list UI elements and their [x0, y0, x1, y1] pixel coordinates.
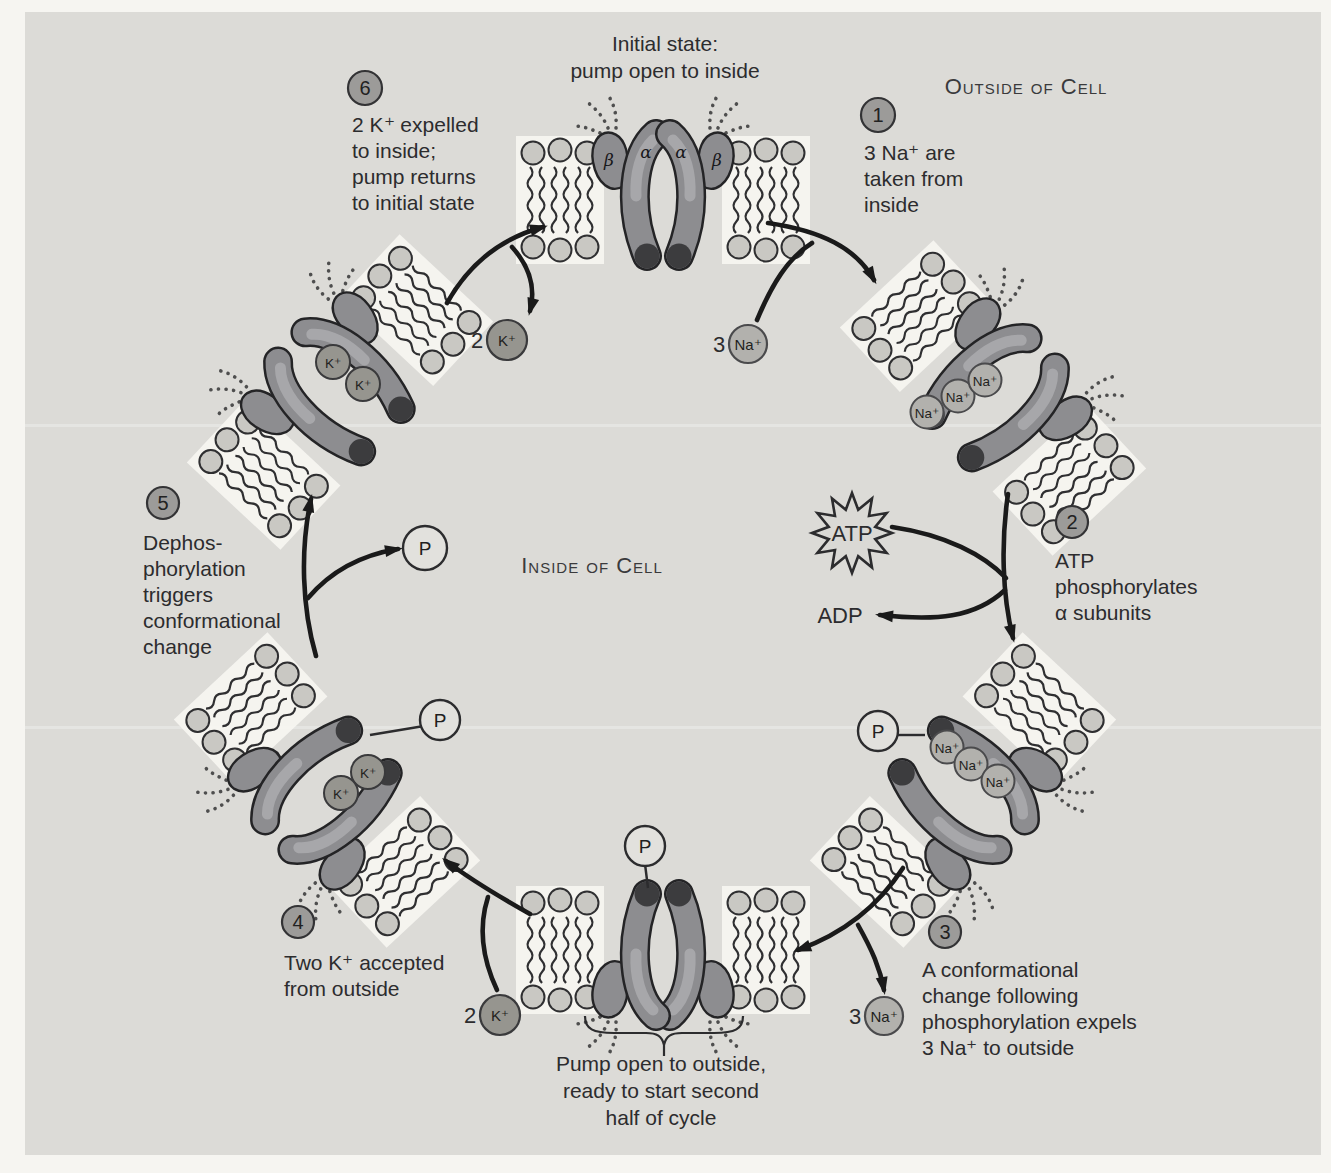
- beta-subunit-label: β: [604, 150, 614, 170]
- step1-text: 3 Na⁺ are taken from inside: [864, 140, 963, 218]
- potassium-count-top: 2: [471, 328, 483, 354]
- arrow-na-out-branch: [858, 925, 884, 990]
- sodium-ion-label: Na⁺: [946, 389, 970, 405]
- sodium-count-top: 3: [713, 332, 725, 358]
- step6-number: 6: [359, 77, 370, 100]
- step5-number: 5: [157, 492, 168, 515]
- pump-open-outside-bottom: [516, 882, 810, 1056]
- pump-initial-top: [516, 95, 810, 269]
- step4-number: 4: [292, 911, 303, 934]
- sodium-symbol-bottom: Na⁺: [870, 1008, 897, 1026]
- step2-number: 2: [1066, 511, 1077, 534]
- bottom-caption: Pump open to outside, ready to start sec…: [556, 1050, 766, 1131]
- figure-title: Initial state: pump open to inside: [570, 30, 759, 84]
- step6-text: 2 K⁺ expelled to inside; pump returns to…: [352, 112, 479, 216]
- potassium-count-bottom: 2: [464, 1003, 476, 1029]
- sodium-count-bottom: 3: [849, 1004, 861, 1030]
- phosphate-label-free: P: [419, 538, 432, 560]
- arrow-step1-to-step2: [1004, 494, 1013, 638]
- beta-subunit-label: β: [712, 150, 722, 170]
- potassium-ion-label: K⁺: [325, 355, 341, 371]
- arrow-p-release-branch: [308, 549, 398, 598]
- alpha-subunit-label: α: [640, 142, 651, 162]
- potassium-ion-label: K⁺: [355, 377, 371, 393]
- phosphate-label-bottom: P: [639, 836, 652, 858]
- alpha-subunit-label: α: [675, 142, 686, 162]
- step5-text: Dephos- phorylation triggers conformatio…: [143, 530, 281, 660]
- potassium-symbol-top: K⁺: [498, 332, 516, 350]
- step3-number: 3: [939, 921, 950, 944]
- step2-text: ATP phosphorylates α subunits: [1055, 548, 1197, 626]
- arrow-k-in-tributary: [483, 897, 497, 990]
- step1-number: 1: [872, 104, 883, 127]
- phosphate-label-step4: P: [434, 710, 447, 732]
- atp-label: ATP: [831, 521, 872, 547]
- sodium-ion-label: Na⁺: [935, 740, 959, 756]
- inside-of-cell-label: Inside of Cell: [521, 553, 663, 579]
- arrow-atp-in: [892, 527, 1006, 578]
- sodium-ion-label: Na⁺: [959, 757, 983, 773]
- sodium-symbol-top: Na⁺: [734, 336, 761, 354]
- potassium-ion-label: K⁺: [333, 786, 349, 802]
- step4-text: Two K⁺ accepted from outside: [284, 950, 444, 1002]
- potassium-symbol-bottom: K⁺: [491, 1007, 509, 1025]
- step3-text: A conformational change following phosph…: [922, 957, 1137, 1061]
- adp-label: ADP: [817, 603, 862, 629]
- arrow-adp-out: [880, 590, 1005, 618]
- sodium-ion-label: Na⁺: [915, 405, 939, 421]
- arrow-step4-to-step6: [304, 499, 316, 656]
- pump-step6-left-upper: [157, 206, 497, 553]
- potassium-ion-label: K⁺: [360, 765, 376, 781]
- phosphate-label-step2: P: [872, 721, 885, 743]
- sodium-ion-label: Na⁺: [973, 373, 997, 389]
- sodium-ion-label: Na⁺: [986, 774, 1010, 790]
- phosphate-link-step4: [370, 726, 424, 735]
- outside-of-cell-label: Outside of Cell: [945, 74, 1108, 100]
